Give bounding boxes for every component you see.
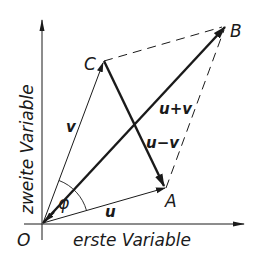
- label-vector-u: u: [105, 203, 116, 221]
- vector-diagram: O A B C u v u+v u−v φ erste Variable zwe…: [0, 0, 257, 260]
- label-vector-u-minus-v: u−v: [146, 134, 180, 152]
- label-vector-u-plus-v: u+v: [159, 100, 193, 118]
- vector-u-minus-v: [104, 61, 164, 186]
- diagram-canvas: O A B C u v u+v u−v φ erste Variable zwe…: [0, 0, 257, 260]
- label-point-c: C: [84, 54, 96, 74]
- label-vector-v: v: [66, 118, 77, 136]
- label-point-a: A: [164, 191, 177, 211]
- y-axis-label: zweite Variable: [17, 84, 37, 215]
- label-angle-phi: φ: [58, 193, 70, 213]
- label-origin: O: [17, 230, 30, 250]
- dashed-edge-c-b: [104, 27, 222, 61]
- label-point-b: B: [230, 21, 242, 41]
- vector-v: [43, 63, 103, 223]
- x-axis-label: erste Variable: [73, 230, 191, 250]
